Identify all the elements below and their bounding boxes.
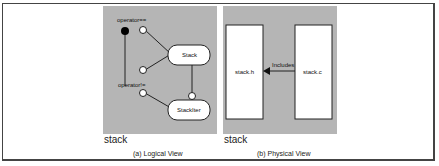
stackiter-class-label: StackIter — [177, 107, 201, 113]
operator-neq-label: operator!= — [118, 82, 146, 88]
stack-class-label: Stack — [182, 52, 197, 58]
includes-label: Includes — [272, 62, 294, 68]
physical-package-name: stack — [224, 134, 247, 145]
logical-view-diagram — [103, 6, 217, 134]
operator-eq-label: operator== — [117, 17, 146, 23]
physical-view-caption: (b) Physical View — [257, 150, 311, 157]
stack-c-label: stack.c — [303, 69, 322, 75]
stack-h-label: stack.h — [235, 69, 254, 75]
physical-view-panel: stack.h stack.c Includes — [223, 6, 337, 134]
figure-frame — [2, 3, 435, 161]
operator-eq-node-icon — [121, 27, 129, 35]
logical-view-panel: operator== operator!= Stack StackIter — [103, 6, 217, 134]
logical-view-caption: (a) Logical View — [133, 150, 183, 157]
logical-package-name: stack — [104, 134, 127, 145]
includes-arrowhead-icon — [263, 67, 270, 75]
